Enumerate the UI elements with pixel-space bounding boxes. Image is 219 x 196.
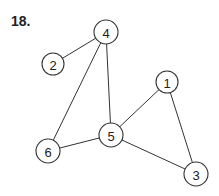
node-label: 5: [107, 129, 114, 144]
edge-1-3: [167, 82, 196, 174]
edge-5-3: [111, 135, 196, 174]
node-4: 4: [94, 20, 118, 44]
node-6: 6: [36, 139, 60, 163]
node-label: 1: [163, 76, 170, 91]
node-3: 3: [184, 162, 208, 186]
node-label: 6: [44, 145, 51, 160]
node-1: 1: [156, 71, 178, 93]
node-2: 2: [42, 53, 64, 75]
node-5: 5: [99, 123, 123, 147]
node-label: 4: [102, 26, 109, 41]
graph-diagram: 421563: [0, 0, 219, 196]
node-label: 3: [192, 168, 199, 183]
edge-4-5: [106, 32, 111, 135]
edges: [48, 32, 196, 174]
nodes: 421563: [36, 20, 208, 186]
node-label: 2: [49, 58, 56, 73]
